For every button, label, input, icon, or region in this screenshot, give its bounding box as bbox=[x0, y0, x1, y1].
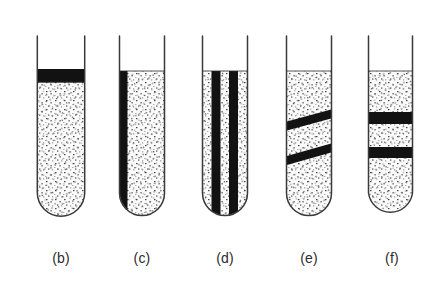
tube-c-contents bbox=[118, 71, 166, 217]
tube-d-contents bbox=[201, 71, 249, 217]
tube-label-b: (b) bbox=[31, 250, 91, 266]
tube-label-c: (c) bbox=[112, 250, 172, 266]
tube-b-band-1 bbox=[36, 69, 86, 83]
tube-label-d: (d) bbox=[195, 250, 255, 266]
tube-d-fill-texture bbox=[201, 71, 249, 217]
test-tube-figure: (b) (c) (d) (e) (f) bbox=[0, 0, 432, 298]
tube-b-fill-texture bbox=[36, 82, 86, 217]
tube-b-contents bbox=[36, 69, 86, 217]
tube-f-band-1 bbox=[367, 112, 414, 124]
tube-e-fill-texture bbox=[285, 71, 333, 217]
tube-e-contents bbox=[285, 71, 333, 217]
tube-d-band-2 bbox=[229, 71, 238, 217]
tube-d-band-1 bbox=[212, 71, 221, 217]
tube-label-f: (f) bbox=[362, 250, 422, 266]
tube-f-band-2 bbox=[367, 147, 414, 158]
tube-f-contents bbox=[367, 71, 414, 217]
tube-label-e: (e) bbox=[279, 250, 339, 266]
tube-f-fill-texture bbox=[367, 71, 414, 217]
